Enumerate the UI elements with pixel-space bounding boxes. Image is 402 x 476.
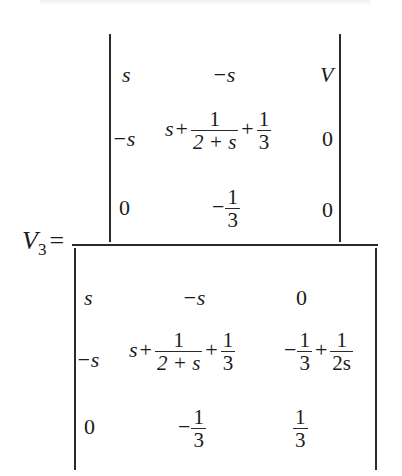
lhs-variable: V xyxy=(22,226,38,255)
num-r2-c3: 0 xyxy=(322,128,333,150)
den-r1-c1: s xyxy=(84,287,93,309)
cropped-header-remnant xyxy=(40,0,370,6)
fraction-1-over-3: 13 xyxy=(297,329,312,374)
minus-sign: − xyxy=(178,414,190,439)
plus-sign: + xyxy=(140,337,152,362)
num-r3-c1: 0 xyxy=(119,197,130,219)
numerator-right-bar xyxy=(339,34,341,242)
plus-sign: + xyxy=(315,337,327,362)
den-r2-c3: −13+12s xyxy=(284,329,354,374)
plus-sign: + xyxy=(176,116,188,141)
den-r1-c2: −s xyxy=(182,287,205,309)
num-r3-c2: −13 xyxy=(212,186,241,231)
num-r1-c3: V xyxy=(320,64,333,86)
minus-sign: − xyxy=(284,337,296,362)
numerator-left-bar xyxy=(109,34,111,242)
den-r2-c2: s+12 + s+13 xyxy=(129,329,236,374)
fraction-line xyxy=(72,244,378,246)
plus-sign: + xyxy=(241,116,253,141)
plus-sign: + xyxy=(205,337,217,362)
num-r2-c1: −s xyxy=(112,128,135,150)
den-r3-c2: −13 xyxy=(178,406,207,451)
minus-sign: − xyxy=(212,194,224,219)
fraction-1-over-3: 13 xyxy=(191,406,206,451)
fraction-1-over-2s: 12s xyxy=(330,329,353,374)
num-r3-c3: 0 xyxy=(322,199,333,221)
lhs-subscript: 3 xyxy=(38,240,47,259)
den-r3-c3: 13 xyxy=(292,406,309,451)
fraction-1-over-2-plus-s: 12 + s xyxy=(191,108,238,153)
lhs-label: V3= xyxy=(22,228,64,263)
fraction-1-over-3: 13 xyxy=(293,406,308,451)
term-s: s xyxy=(129,337,138,362)
denominator-right-bar xyxy=(375,248,377,470)
den-r1-c3: 0 xyxy=(296,287,307,309)
fraction-1-over-3: 13 xyxy=(257,108,272,153)
equals-sign: = xyxy=(49,226,64,255)
den-r2-c1: −s xyxy=(76,349,99,371)
fraction-1-over-3: 13 xyxy=(225,186,240,231)
den-r3-c1: 0 xyxy=(84,416,95,438)
num-r1-c2: −s xyxy=(212,64,235,86)
fraction-1-over-2-plus-s: 12 + s xyxy=(155,329,202,374)
term-s: s xyxy=(165,116,174,141)
fraction-1-over-3: 13 xyxy=(221,329,236,374)
num-r1-c1: s xyxy=(122,64,131,86)
num-r2-c2: s+12 + s+13 xyxy=(165,108,272,153)
